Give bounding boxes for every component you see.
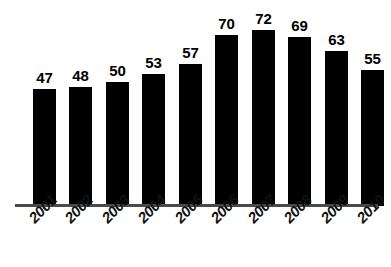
bar-value-label: 72: [255, 11, 272, 26]
bar-rect: [33, 89, 56, 206]
bar-value-label: 48: [72, 68, 89, 83]
bar-rect: [142, 74, 165, 206]
bar-item[interactable]: 47: [33, 89, 56, 206]
x-axis-tick-labels: 2001 2002 2003 2004 2005 2006 2007 2008 …: [0, 206, 391, 267]
bar-item[interactable]: 50: [106, 82, 129, 206]
bar-value-label: 50: [109, 63, 126, 78]
bar-item[interactable]: 48: [69, 87, 92, 206]
plot-area: 47 48 50 53 57 70 72 69: [0, 0, 391, 206]
bar-rect: [325, 51, 348, 206]
bar-item[interactable]: 70: [215, 35, 238, 206]
bar-value-label: 53: [145, 55, 162, 70]
bar-item[interactable]: 55: [361, 70, 384, 206]
bar-item[interactable]: 72: [252, 30, 275, 206]
bar-value-label: 63: [328, 32, 345, 47]
bar-value-label: 47: [36, 70, 53, 85]
bar-rect: [288, 37, 311, 206]
bar-value-label: 55: [364, 51, 381, 66]
bar-item[interactable]: 53: [142, 74, 165, 206]
bar-rect: [106, 82, 129, 206]
bar-value-label: 70: [218, 16, 235, 31]
bar-value-label: 69: [291, 18, 308, 33]
bar-rect: [361, 70, 384, 206]
bar-rect: [69, 87, 92, 206]
bar-item[interactable]: 69: [288, 37, 311, 206]
bar-item[interactable]: 57: [179, 64, 202, 206]
bar-chart: 47 48 50 53 57 70 72 69: [0, 0, 391, 267]
bar-item[interactable]: 63: [325, 51, 348, 206]
bar-rect: [179, 64, 202, 206]
bar-rect: [215, 35, 238, 206]
bar-value-label: 57: [182, 45, 199, 60]
bar-rect: [252, 30, 275, 206]
